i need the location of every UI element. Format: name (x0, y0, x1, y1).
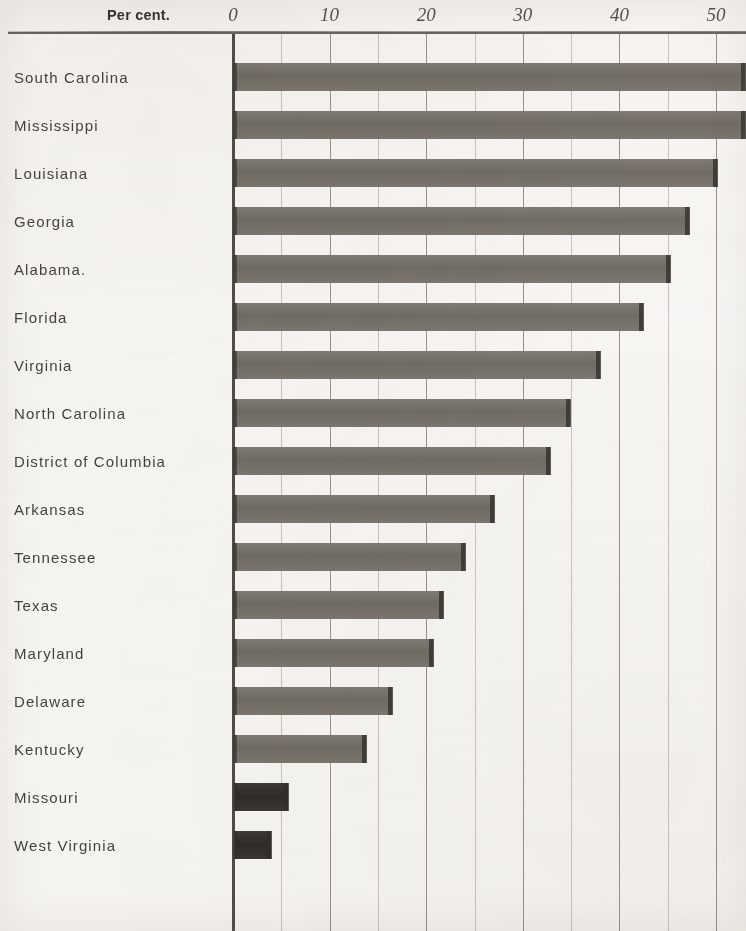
category-label: Alabama. (0, 261, 86, 278)
dot-leader (78, 215, 229, 228)
category-row: Florida (0, 303, 233, 331)
dot-leader (169, 455, 229, 468)
category-row: Virginia (0, 351, 233, 379)
category-label: West Virginia (0, 837, 116, 854)
x-tick-label-50: 50 (707, 4, 726, 26)
bar (233, 303, 643, 331)
x-tick-label-40: 40 (610, 4, 629, 26)
y-axis-zero-line (232, 34, 235, 931)
dot-leader (89, 695, 229, 708)
bar (233, 447, 550, 475)
category-label: Louisiana (0, 165, 88, 182)
category-row: Missouri (0, 783, 233, 811)
bar (233, 63, 745, 91)
bar (233, 639, 433, 667)
bar (233, 735, 366, 763)
category-label: North Carolina (0, 405, 126, 422)
category-label: Maryland (0, 645, 85, 662)
bar (233, 783, 288, 811)
category-label: Delaware (0, 693, 86, 710)
dot-leader (132, 71, 229, 84)
bar-chart-figure: Per cent. 01020304050 South CarolinaMiss… (0, 0, 746, 931)
category-label: South Carolina (0, 69, 129, 86)
dot-leader (119, 839, 229, 852)
plot-area (233, 34, 746, 931)
bar (233, 111, 745, 139)
category-label: Missouri (0, 789, 79, 806)
x-axis-caption: Per cent. (107, 7, 170, 23)
bar (233, 399, 570, 427)
category-label: Mississippi (0, 117, 99, 134)
category-label: Arkansas (0, 501, 85, 518)
category-row: North Carolina (0, 399, 233, 427)
bar (233, 831, 271, 859)
category-row: Mississippi (0, 111, 233, 139)
axis-top-rule (8, 32, 746, 34)
category-label: Georgia (0, 213, 75, 230)
axis-header-band: Per cent. 01020304050 (0, 0, 746, 33)
category-row: Arkansas (0, 495, 233, 523)
bar (233, 687, 392, 715)
category-label: Virginia (0, 357, 73, 374)
category-row: Alabama. (0, 255, 233, 283)
category-label: Tennessee (0, 549, 96, 566)
category-row: Tennessee (0, 543, 233, 571)
bar (233, 351, 600, 379)
dot-leader (71, 311, 229, 324)
dot-leader (88, 647, 230, 660)
category-row: South Carolina (0, 63, 233, 91)
category-row: Maryland (0, 639, 233, 667)
category-row: District of Columbia (0, 447, 233, 475)
dot-leader (129, 407, 229, 420)
bar (233, 543, 465, 571)
category-row: Texas (0, 591, 233, 619)
dot-leader (102, 119, 229, 132)
bar (233, 495, 494, 523)
category-row: West Virginia (0, 831, 233, 859)
x-tick-label-10: 10 (320, 4, 339, 26)
dot-leader (62, 599, 229, 612)
bar (233, 207, 689, 235)
dot-leader (89, 263, 229, 276)
bar (233, 591, 443, 619)
x-tick-label-0: 0 (228, 4, 238, 26)
dot-leader (76, 359, 229, 372)
dot-leader (88, 503, 229, 516)
dot-leader (91, 167, 229, 180)
category-label: Texas (0, 597, 59, 614)
bar (233, 159, 717, 187)
x-tick-label-20: 20 (417, 4, 436, 26)
category-row: Georgia (0, 207, 233, 235)
category-row: Kentucky (0, 735, 233, 763)
category-label: Kentucky (0, 741, 85, 758)
x-tick-label-30: 30 (513, 4, 532, 26)
bar (233, 255, 670, 283)
category-row: Louisiana (0, 159, 233, 187)
dot-leader (82, 791, 229, 804)
category-label: District of Columbia (0, 453, 166, 470)
category-label: Florida (0, 309, 68, 326)
dot-leader (88, 743, 230, 756)
category-row: Delaware (0, 687, 233, 715)
dot-leader (99, 551, 229, 564)
